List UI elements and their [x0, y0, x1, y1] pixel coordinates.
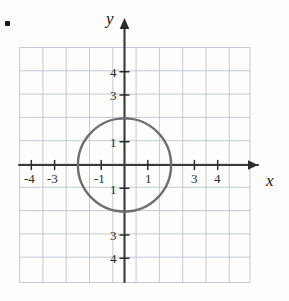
y-tick-label-neg-3: 3: [110, 229, 116, 242]
y-tick-label-4: 4: [110, 66, 116, 79]
arrow-right-icon: [248, 160, 258, 170]
arrow-up-icon: [120, 18, 130, 29]
x-tick-label-neg-1: -1: [94, 172, 104, 185]
y-tick-label-1: 1: [110, 136, 116, 149]
x-tick-label-neg-4: -4: [24, 172, 34, 185]
y-tick-label-neg-1: 1: [110, 183, 116, 196]
x-axis-label: x: [266, 172, 274, 189]
x-tick-label-3: 3: [191, 172, 197, 185]
x-tick-label-4: 4: [214, 172, 220, 185]
coordinate-plane: [0, 0, 289, 301]
y-axis-label: y: [106, 10, 114, 27]
y-axis: [120, 18, 130, 282]
graph-figure: y x 4 3 1 1 3 4 -4 -3 -1 1 3 4: [0, 0, 289, 301]
x-tick-label-1: 1: [145, 172, 151, 185]
y-tick-label-neg-4: 4: [110, 252, 116, 265]
y-tick-label-3: 3: [110, 89, 116, 102]
x-tick-label-neg-3: -3: [47, 172, 57, 185]
